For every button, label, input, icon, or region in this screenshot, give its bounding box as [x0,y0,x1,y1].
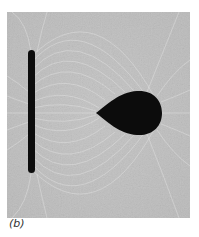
charged-rod [28,50,35,173]
field-lines-figure [7,12,190,218]
field-lines-image [7,12,190,218]
figure-caption: (b) [9,217,25,230]
